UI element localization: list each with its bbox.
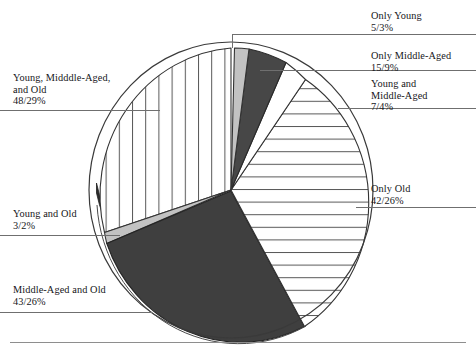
slice-label-only-old-value: 42/26% (371, 195, 410, 207)
slice-label-young-and-middle-aged-value: 7/4% (371, 101, 428, 113)
slice-label-young-and-middle-aged-name-1: Young and (371, 78, 428, 90)
leader-line-only-young (232, 34, 476, 48)
slice-label-young-and-old-value: 3/2% (13, 220, 77, 232)
slice-label-only-young-name: Only Young (371, 10, 422, 22)
slice-label-young-middle-aged-and-old-name-2: and Old (13, 84, 110, 96)
slice-label-young-and-old: Young and Old 3/2% (13, 208, 77, 231)
slice-label-middle-aged-and-old-name: Middle-Aged and Old (13, 284, 106, 296)
slice-label-middle-aged-and-old-value: 43/26% (13, 296, 106, 308)
slice-label-only-middle-aged-name: Only Middle-Aged (371, 50, 451, 62)
slice-label-only-young: Only Young 5/3% (371, 10, 422, 33)
slice-label-only-old: Only Old 42/26% (371, 183, 410, 206)
slice-label-young-and-middle-aged-name-2: Middle-Aged (371, 90, 428, 102)
slice-label-only-middle-aged-value: 15/9% (371, 62, 451, 74)
slice-label-only-middle-aged: Only Middle-Aged 15/9% (371, 50, 451, 73)
slice-label-only-young-value: 5/3% (371, 22, 422, 34)
slice-label-only-old-name: Only Old (371, 183, 410, 195)
slice-label-young-and-middle-aged: Young and Middle-Aged 7/4% (371, 78, 428, 113)
slice-label-young-middle-aged-and-old-value: 48/29% (13, 95, 110, 107)
pie-chart-figure: Only Young 5/3% Only Middle-Aged 15/9% Y… (0, 0, 476, 349)
slice-label-middle-aged-and-old: Middle-Aged and Old 43/26% (13, 284, 106, 307)
slice-label-young-and-old-name: Young and Old (13, 208, 77, 220)
slice-label-young-middle-aged-and-old: Young, Midddle-Aged, and Old 48/29% (13, 72, 110, 107)
slice-label-young-middle-aged-and-old-name-1: Young, Midddle-Aged, (13, 72, 110, 84)
